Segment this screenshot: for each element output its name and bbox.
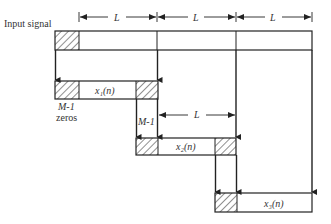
dimension-label-L4: L xyxy=(193,109,200,120)
block-x2-label: x₂(n) xyxy=(175,141,196,153)
dimension-label-L2: L xyxy=(192,12,199,23)
dimension-label-L3: L xyxy=(269,12,276,23)
dimension-label-L1: L xyxy=(113,12,120,23)
input-signal-bar xyxy=(55,31,312,50)
block-x3-label: x₃(n) xyxy=(263,198,284,210)
arrows-to-x3 xyxy=(216,50,313,192)
arrows-to-x1 xyxy=(56,50,158,80)
overlap-save-diagram: Input signal L L L x₁(n) M-1 zeros xyxy=(0,0,331,224)
zeros-label: zeros xyxy=(56,112,77,123)
overlap-label-1: M-1 xyxy=(57,101,75,112)
input-signal-label: Input signal xyxy=(4,18,52,29)
block-x1-label: x₁(n) xyxy=(94,85,115,97)
overlap-label-2: M-1 xyxy=(137,116,155,127)
